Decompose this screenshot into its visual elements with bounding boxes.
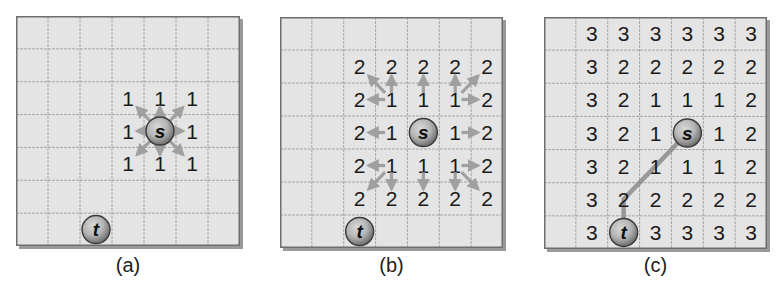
cell-value: 3 [586,155,598,178]
svg-text:t: t [93,219,100,240]
cell-value: 1 [650,155,662,178]
panel-label-a: (a) [98,254,158,277]
cell-value: 3 [650,221,662,244]
cell-value: 1 [650,88,662,111]
cell-value: 1 [682,155,694,178]
cell-value: 3 [586,188,598,211]
cell-value: 3 [586,22,598,45]
cell-value: 3 [618,22,630,45]
cell-value: 1 [682,88,694,111]
cell-value: 3 [745,221,757,244]
svg-text:s: s [682,123,693,144]
panel-a: 11111111st [16,16,240,246]
svg-text:s: s [155,121,166,142]
source-node-s: s [409,119,437,147]
cell-value: 3 [682,221,694,244]
cell-value: 3 [586,221,598,244]
target-node-t: t [82,216,110,244]
panel-label-c: (c) [626,254,686,277]
cell-value: 1 [186,87,198,110]
cell-value: 1 [449,121,461,144]
cell-value: 2 [713,55,725,78]
cell-value: 2 [682,188,694,211]
cell-value: 2 [618,88,630,111]
cell-value: 2 [481,55,493,78]
cell-value: 1 [713,88,725,111]
cell-value: 2 [418,187,430,210]
cell-value: 2 [449,187,461,210]
cell-value: 2 [745,88,757,111]
cell-value: 1 [122,87,134,110]
source-node-s: s [673,119,701,147]
cell-value: 1 [186,120,198,143]
cell-value: 2 [481,121,493,144]
panel-c: 3333333222223211123211232111232222233333… [544,17,767,249]
svg-text:t: t [620,222,627,243]
cell-value: 2 [354,88,366,111]
cell-value: 2 [386,55,398,78]
cell-value: 1 [386,121,398,144]
target-node-t: t [346,218,374,246]
cell-value: 1 [122,120,134,143]
cell-value: 3 [682,22,694,45]
svg-text:t: t [356,221,363,242]
panel-label-b: (b) [362,254,422,277]
figure-caption-fragment [0,294,783,304]
cell-value: 2 [354,187,366,210]
cell-value: 3 [586,122,598,145]
cell-value: 2 [354,154,366,177]
cell-value: 2 [354,121,366,144]
cell-value: 2 [618,55,630,78]
cell-value: 2 [745,188,757,211]
cell-value: 2 [650,55,662,78]
cell-value: 2 [481,187,493,210]
grid-a: 11111111st [16,16,246,252]
cell-value: 2 [449,55,461,78]
grid-b: 222222111221122111222222st [280,17,509,254]
cell-value: 2 [481,88,493,111]
svg-text:s: s [418,122,429,143]
cell-value: 1 [650,122,662,145]
cell-value: 2 [745,55,757,78]
cell-value: 1 [186,152,198,175]
cell-value: 3 [650,22,662,45]
cell-value: 2 [745,122,757,145]
cell-value: 2 [650,188,662,211]
cell-value: 3 [586,88,598,111]
cell-value: 2 [354,55,366,78]
cell-value: 2 [418,55,430,78]
grid-c: 3333333222223211123211232111232222233333… [544,17,773,255]
cell-value: 1 [713,155,725,178]
cell-value: 2 [618,155,630,178]
cell-value: 2 [713,188,725,211]
cell-value: 2 [618,188,630,211]
cell-value: 1 [154,87,166,110]
cell-value: 2 [618,122,630,145]
cell-value: 3 [713,221,725,244]
cell-value: 2 [682,55,694,78]
cell-value: 2 [481,154,493,177]
cell-value: 1 [713,122,725,145]
cell-value: 3 [586,55,598,78]
cell-value: 1 [122,152,134,175]
source-node-s: s [146,117,174,145]
target-node-t: t [610,218,638,246]
cell-value: 3 [713,22,725,45]
cell-value: 2 [386,187,398,210]
cell-value: 3 [745,22,757,45]
panel-b: 222222111221122111222222st [280,17,503,248]
cell-value: 1 [154,152,166,175]
cell-value: 2 [745,155,757,178]
